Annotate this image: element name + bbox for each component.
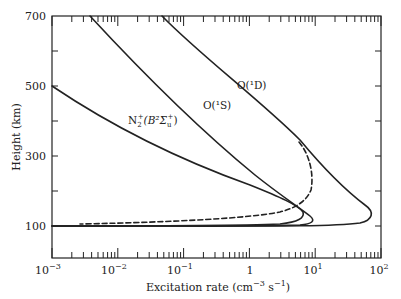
y-tick-labels: 700 500 300 100 [25,10,46,233]
y-tick-100: 100 [25,220,46,233]
y-tick-300: 300 [25,150,46,163]
label-n2plus: N2+(B²Σu+) [128,113,177,129]
label-o1s: O(¹S) [203,99,231,111]
y-axis-ticks [52,51,381,226]
x-tick-1e-1: 10−1 [167,262,193,277]
label-o1d: O(¹D) [237,79,266,91]
x-tick-1e-3: 10−3 [35,262,61,277]
excitation-rate-chart: 700 500 300 100 10−3 10−2 10−1 1 101 102… [0,0,401,299]
y-axis-title: Height (km) [10,103,23,170]
plot-frame [52,16,381,258]
x-axis-title: Excitation rate (cm−3 s−1) [146,279,290,294]
y-tick-700: 700 [25,10,46,23]
x-tick-1e1: 101 [303,262,322,277]
x-tick-1e-2: 10−2 [101,262,127,277]
x-tick-1: 1 [247,264,254,277]
x-axis-ticks [52,16,381,258]
x-tick-1e2: 102 [369,262,388,277]
y-tick-500: 500 [25,80,46,93]
curve-n2plus [52,86,303,226]
curve-o1d [52,16,371,226]
x-tick-labels: 10−3 10−2 10−1 1 101 102 [35,262,388,277]
curve-dashed [80,142,312,224]
